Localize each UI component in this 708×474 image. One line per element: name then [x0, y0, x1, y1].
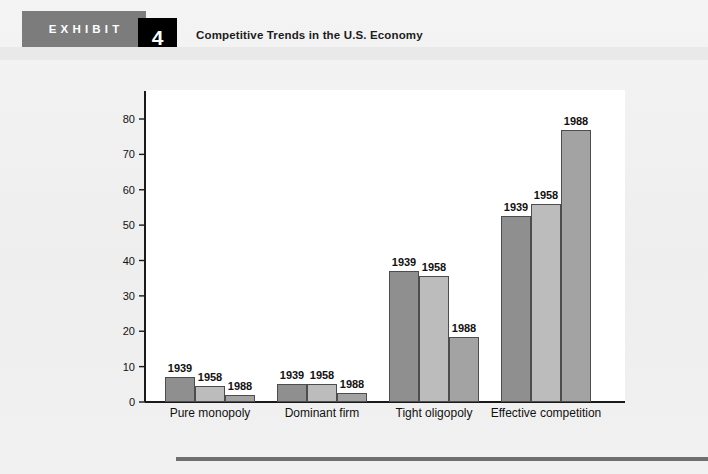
bar-year-label: 1958	[534, 189, 558, 201]
bar	[195, 386, 225, 402]
bar	[337, 393, 367, 402]
axis-lines	[0, 0, 708, 474]
bar-year-label: 1939	[168, 362, 192, 374]
bar	[277, 384, 307, 402]
bar	[561, 130, 591, 402]
bar	[307, 384, 337, 402]
exhibit-page: EXHIBIT 4 Competitive Trends in the U.S.…	[0, 0, 708, 474]
footer-rule	[176, 457, 708, 461]
bar	[531, 204, 561, 402]
bar-year-label: 1958	[310, 369, 334, 381]
bar-year-label: 1939	[504, 201, 528, 213]
x-axis-category-label: Effective competition	[491, 406, 602, 420]
bar	[501, 216, 531, 402]
x-axis-category-label: Pure monopoly	[170, 406, 251, 420]
bar-year-label: 1939	[280, 369, 304, 381]
bar-year-label: 1958	[198, 371, 222, 383]
bar-year-label: 1988	[564, 115, 588, 127]
bar-year-label: 1988	[452, 322, 476, 334]
bar-year-label: 1988	[340, 378, 364, 390]
bar-year-label: 1939	[392, 256, 416, 268]
bar	[419, 276, 449, 402]
bar	[165, 377, 195, 402]
bar-year-label: 1958	[422, 261, 446, 273]
bar-chart: Percentage share of each group 010203040…	[0, 0, 708, 474]
bar	[389, 271, 419, 402]
x-axis-category-label: Dominant firm	[285, 406, 360, 420]
x-axis-category-label: Tight oligopoly	[396, 406, 473, 420]
bar	[449, 337, 479, 402]
bar	[225, 395, 255, 402]
bar-year-label: 1988	[228, 380, 252, 392]
